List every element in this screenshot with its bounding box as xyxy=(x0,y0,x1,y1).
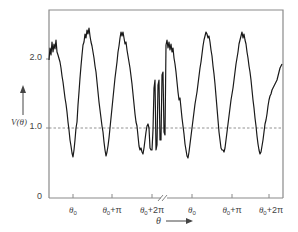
x-axis-arrow-icon xyxy=(166,218,193,224)
x-tick-label: θ0+π xyxy=(222,205,241,216)
x-axis-title: θ xyxy=(156,215,161,226)
y-axis-arrow-icon xyxy=(20,85,26,115)
y-axis-title-arg: (θ) xyxy=(17,117,27,127)
y-tick-label-0: 0 xyxy=(22,191,42,201)
x-tick-label: θ0+2π xyxy=(259,205,283,216)
y-tick-label-2: 2.0 xyxy=(22,52,42,62)
chart-canvas xyxy=(0,0,298,232)
y-axis-title: V(θ) xyxy=(11,117,27,127)
x-tick-label: θ0 xyxy=(188,205,196,216)
x-tick-label: θ0 xyxy=(69,205,77,216)
x-tick-label: θ0+π xyxy=(102,205,121,216)
data-curve xyxy=(49,28,282,158)
